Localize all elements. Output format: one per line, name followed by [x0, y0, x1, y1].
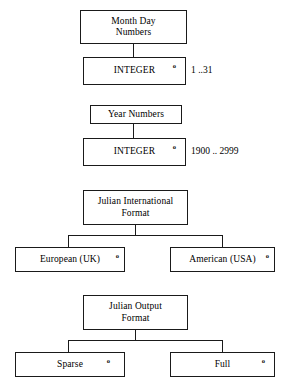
node-label: Julian International Format: [98, 196, 174, 218]
node-european-uk[interactable]: European (UK) o: [15, 247, 125, 272]
node-sparse[interactable]: Sparse o: [15, 352, 125, 377]
node-label: American (USA): [189, 254, 256, 265]
node-month-day-integer[interactable]: INTEGER o: [83, 57, 186, 85]
connector-month-day-to-integer: [133, 44, 134, 57]
node-full[interactable]: Full o: [170, 352, 275, 377]
diagram-canvas: Month Day Numbers INTEGER o 1 ..31 Year …: [0, 0, 289, 389]
cardinality-marker-icon: o: [107, 358, 110, 365]
node-year-integer[interactable]: INTEGER o: [83, 138, 186, 166]
annotation-month-day-range: 1 ..31: [191, 66, 212, 76]
cardinality-marker-icon: o: [262, 358, 265, 365]
node-julian-international-format[interactable]: Julian International Format: [83, 190, 188, 225]
cardinality-marker-icon: o: [116, 253, 119, 260]
annotation-year-range: 1900 .. 2999: [191, 147, 239, 157]
connector-julian-international-bar: [68, 235, 223, 236]
node-label: Month Day Numbers: [111, 16, 155, 38]
node-label: European (UK): [40, 254, 100, 265]
node-label: Year Numbers: [108, 109, 164, 120]
connector-julian-output-left-drop: [68, 340, 69, 352]
connector-julian-output-bar: [68, 340, 223, 341]
node-label: Sparse: [57, 359, 83, 370]
node-label: Full: [215, 359, 231, 370]
cardinality-marker-icon: o: [173, 63, 176, 70]
node-label: Julian Output Format: [109, 301, 162, 323]
node-month-day-numbers[interactable]: Month Day Numbers: [80, 10, 187, 44]
cardinality-marker-icon: o: [266, 253, 269, 260]
node-label: INTEGER: [114, 146, 155, 157]
node-julian-output-format[interactable]: Julian Output Format: [83, 295, 188, 330]
connector-year-to-integer: [133, 124, 134, 138]
node-american-usa[interactable]: American (USA) o: [170, 247, 275, 272]
connector-julian-output-right-drop: [222, 340, 223, 352]
node-label: INTEGER: [114, 65, 155, 76]
node-year-numbers[interactable]: Year Numbers: [90, 105, 182, 124]
cardinality-marker-icon: o: [173, 144, 176, 151]
